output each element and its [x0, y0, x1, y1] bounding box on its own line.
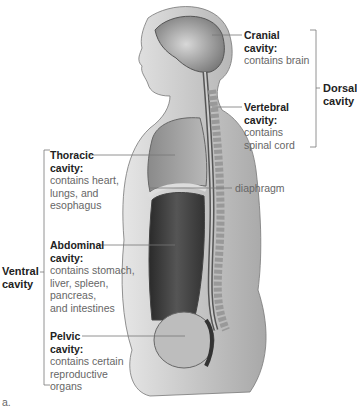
group-dorsal-cavity: Dorsal cavity — [323, 82, 357, 108]
pelvic-title-2: cavity: — [50, 343, 124, 356]
ventral-line1: Ventral — [2, 265, 39, 278]
group-ventral-cavity: Ventral cavity — [2, 265, 39, 291]
abdominal-desc-3: pancreas, — [50, 289, 135, 302]
vertebral-title: Vertebral — [244, 101, 295, 114]
pelvic-desc-3: organs — [50, 380, 124, 393]
label-vertebral-cavity: Vertebral cavity: contains spinal cord — [244, 101, 295, 151]
abdominal-desc-4: and intestines — [50, 302, 135, 315]
panel-label: a. — [2, 396, 11, 408]
thoracic-desc-2: lungs, and — [50, 187, 119, 200]
vertebral-desc-2: spinal cord — [244, 139, 295, 152]
pelvic-desc-2: reproductive — [50, 368, 124, 381]
vertebral-title-2: cavity: — [244, 114, 295, 127]
thoracic-desc-3: esophagus — [50, 199, 119, 212]
label-thoracic-cavity: Thoracic cavity: contains heart, lungs, … — [50, 149, 119, 212]
dorsal-line2: cavity — [323, 95, 357, 108]
thoracic-desc-1: contains heart, — [50, 174, 119, 187]
abdominal-desc-1: contains stomach, — [50, 264, 135, 277]
label-diaphragm: diaphragm — [235, 182, 285, 194]
label-cranial-cavity: Cranial cavity: contains brain — [244, 29, 309, 67]
cranial-desc: contains brain — [244, 54, 309, 67]
label-pelvic-cavity: Pelvic cavity: contains certain reproduc… — [50, 330, 124, 393]
thoracic-title: Thoracic — [50, 149, 119, 162]
cranial-title-2: cavity: — [244, 42, 309, 55]
vertebral-desc-1: contains — [244, 126, 295, 139]
pelvic-desc-1: contains certain — [50, 355, 124, 368]
abdominal-desc-2: liver, spleen, — [50, 277, 135, 290]
abdominal-title-2: cavity: — [50, 252, 135, 265]
pelvic-title: Pelvic — [50, 330, 124, 343]
ventral-line2: cavity — [2, 278, 39, 291]
label-abdominal-cavity: Abdominal cavity: contains stomach, live… — [50, 239, 135, 314]
dorsal-line1: Dorsal — [323, 82, 357, 95]
abdominal-title: Abdominal — [50, 239, 135, 252]
cranial-title: Cranial — [244, 29, 309, 42]
thoracic-title-2: cavity: — [50, 162, 119, 175]
